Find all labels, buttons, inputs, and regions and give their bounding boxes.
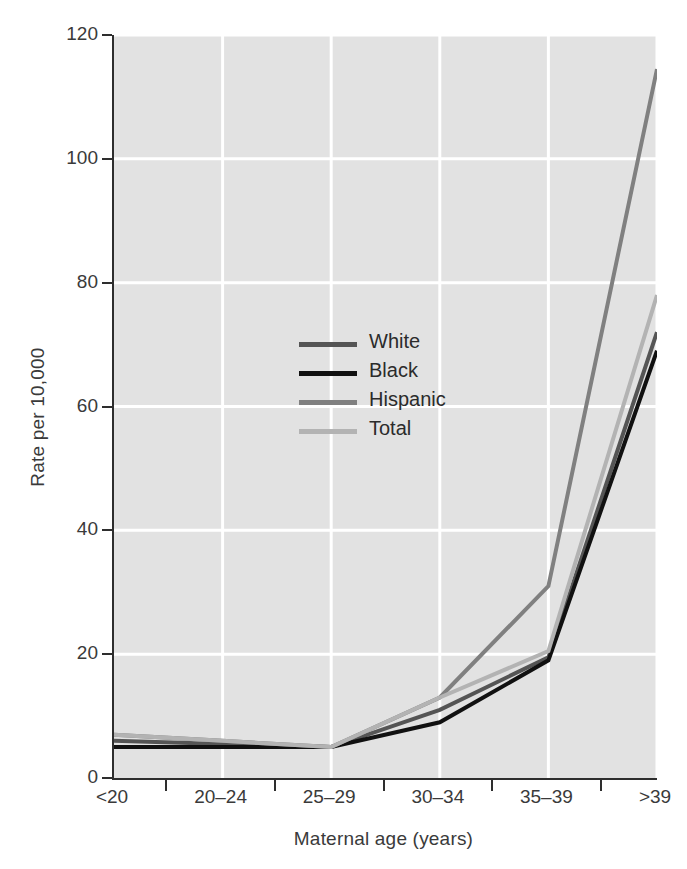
y-tick-label: 120	[40, 23, 98, 45]
x-axis-title: Maternal age (years)	[112, 828, 655, 850]
x-tick-label: >39	[595, 786, 687, 808]
legend-label: Hispanic	[369, 388, 446, 411]
legend-label: White	[369, 330, 420, 353]
x-tick-mark	[274, 780, 276, 791]
legend-swatch-white	[299, 342, 357, 347]
x-tick-mark	[165, 780, 167, 791]
y-tick-mark	[102, 406, 112, 408]
legend-item-black: Black	[299, 360, 469, 389]
x-tick-mark	[491, 780, 493, 791]
x-tick-mark	[383, 780, 385, 791]
x-tick-label: <20	[52, 786, 172, 808]
x-tick-label: 35–39	[486, 786, 606, 808]
y-tick-label: 80	[40, 271, 98, 293]
y-axis-title: Rate per 10,000	[27, 307, 49, 527]
legend: WhiteBlackHispanicTotal	[299, 331, 469, 447]
y-tick-mark	[102, 282, 112, 284]
legend-item-total: Total	[299, 418, 469, 447]
y-tick-mark	[102, 653, 112, 655]
y-tick-mark	[102, 777, 112, 779]
legend-swatch-black	[299, 371, 357, 376]
y-tick-label: 20	[40, 642, 98, 664]
legend-swatch-total	[299, 429, 357, 434]
y-tick-label: 60	[40, 395, 98, 417]
y-tick-mark	[102, 529, 112, 531]
legend-swatch-hispanic	[299, 400, 357, 405]
legend-item-white: White	[299, 331, 469, 360]
x-tick-label: 20–24	[161, 786, 281, 808]
y-tick-label: 100	[40, 147, 98, 169]
legend-item-hispanic: Hispanic	[299, 389, 469, 418]
plot-area: WhiteBlackHispanicTotal	[112, 35, 657, 780]
y-tick-label: 40	[40, 518, 98, 540]
legend-label: Total	[369, 417, 411, 440]
y-tick-label: 0	[40, 766, 98, 788]
chart-figure: Rate per 10,000 020406080100120 WhiteBla…	[0, 0, 687, 869]
y-tick-mark	[102, 34, 112, 36]
x-tick-mark	[600, 780, 602, 791]
x-tick-label: 30–34	[378, 786, 498, 808]
y-tick-mark	[102, 158, 112, 160]
legend-label: Black	[369, 359, 418, 382]
x-tick-label: 25–29	[269, 786, 389, 808]
